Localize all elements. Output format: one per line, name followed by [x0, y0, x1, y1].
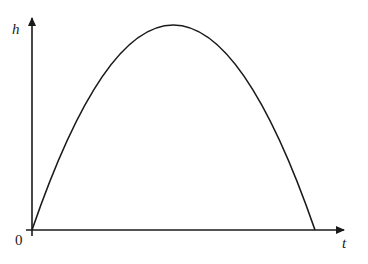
- origin-label: 0: [15, 232, 23, 248]
- y-axis-label: h: [12, 21, 20, 37]
- height-time-diagram: h t 0: [0, 0, 368, 264]
- x-axis-label: t: [342, 235, 347, 251]
- height-curve: [32, 25, 315, 230]
